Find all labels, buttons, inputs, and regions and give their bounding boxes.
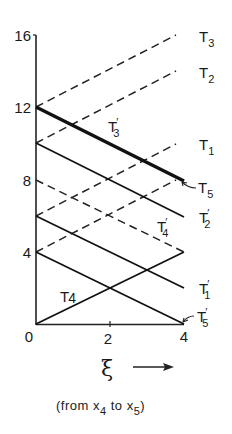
line-labels: T3 T2 T1 T5 T′2 T′3 T′4 T′1 T′5 T4 [60, 28, 214, 329]
label-T2: T2 [199, 64, 214, 85]
y-tick-label-12: 12 [14, 99, 31, 116]
svg-text:T4: T4 [60, 288, 76, 306]
svg-text:T′1: T′1 [199, 278, 210, 301]
label-T1-prime: T′1 [199, 278, 210, 301]
tick-labels: 16 12 8 4 0 2 4 [14, 27, 188, 347]
svg-text:T′4: T′4 [157, 216, 168, 239]
temperature-diagram: 16 12 8 4 0 2 4 T3 T2 T [0, 0, 232, 434]
label-T4-prime: T′4 [157, 216, 168, 239]
x-tick-label-0: 0 [25, 328, 33, 345]
line-T5 [36, 180, 176, 252]
label-T4: T4 [60, 288, 76, 306]
svg-text:T1: T1 [199, 136, 214, 157]
xi-symbol: ξ [101, 356, 113, 381]
svg-text:(from x4 to x5): (from x4 to x5) [56, 398, 145, 417]
svg-text:T3: T3 [199, 28, 214, 49]
y-tick-label-16: 16 [14, 27, 31, 44]
line-T2-prime [36, 143, 184, 217]
line-T2 [36, 71, 176, 143]
line-T3 [36, 35, 176, 107]
label-T3: T3 [199, 28, 214, 49]
x-tick-label-2: 2 [104, 330, 112, 347]
y-tick-label-4: 4 [23, 244, 31, 261]
label-T2-prime: T′2 [199, 207, 210, 230]
label-T5: T5 [198, 179, 213, 200]
x-tick-label-4: 4 [180, 328, 188, 345]
svg-text:T5: T5 [198, 179, 213, 200]
caption: (from x4 to x5) [56, 398, 145, 417]
label-T1: T1 [199, 136, 214, 157]
x-axis-label: ξ [101, 356, 174, 381]
svg-text:T′5: T′5 [197, 306, 208, 329]
line-T4-prime [36, 180, 184, 252]
svg-text:T2: T2 [199, 64, 214, 85]
leaders [182, 182, 196, 322]
svg-text:T′2: T′2 [199, 207, 210, 230]
label-T3-prime: T′3 [108, 116, 119, 139]
line-T1 [36, 144, 176, 216]
label-T5-prime: T′5 [197, 306, 208, 329]
svg-text:T′3: T′3 [108, 116, 119, 139]
axes [33, 35, 184, 327]
y-tick-label-8: 8 [23, 172, 31, 189]
